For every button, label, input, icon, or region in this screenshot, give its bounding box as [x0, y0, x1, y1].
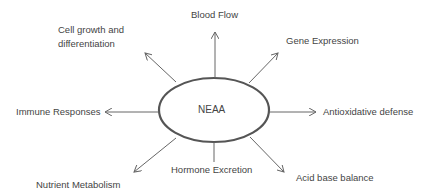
label-hormone-excretion: Hormone Excretion	[171, 163, 252, 177]
center-label: NEAA	[198, 104, 225, 115]
label-acid-base-balance: Acid base balance	[296, 171, 374, 185]
label-cell-growth-line2: differentiation	[58, 37, 115, 51]
label-blood-flow: Blood Flow	[191, 8, 238, 22]
label-nutrient-metabolism: Nutrient Metabolism	[36, 178, 120, 192]
arrow-cell-growth	[145, 53, 176, 82]
arrow-nutrient-metabolism	[134, 138, 176, 172]
arrow-acid-base-balance	[250, 137, 284, 172]
label-immune-responses: Immune Responses	[16, 105, 100, 119]
label-gene-expression: Gene Expression	[286, 34, 359, 48]
label-antioxidative-defense: Antioxidative defense	[323, 105, 413, 119]
arrow-gene-expression	[249, 53, 278, 83]
label-cell-growth-line1: Cell growth and	[58, 23, 124, 37]
